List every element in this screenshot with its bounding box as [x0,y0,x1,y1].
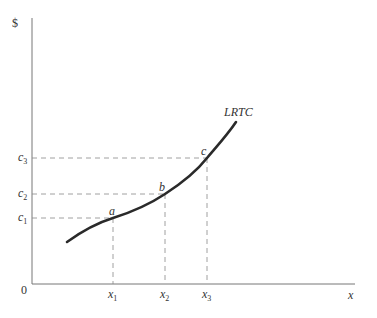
x-tick-x3: x3 [201,287,211,303]
y-tick-c2: c2 [18,186,27,202]
curve-label-lrtc: LRTC [223,105,254,119]
x-tick-x2: x2 [159,287,169,303]
origin-label: 0 [21,283,27,297]
point-label-a: a [109,204,115,218]
x-tick-x1: x1 [107,287,117,303]
y-tick-c3: c3 [18,150,27,166]
guide-lines [32,158,207,284]
lrtc-curve [67,122,236,242]
y-tick-c1: c1 [18,210,27,226]
y-axis-label: $ [12,16,18,30]
point-label-b: b [159,180,165,194]
point-label-c: c [201,144,207,158]
x-axis-label: x [347,288,354,302]
lrtc-chart: $ 0 x LRTC a b c c1 c2 c3 x1 x2 x3 [0,0,377,318]
